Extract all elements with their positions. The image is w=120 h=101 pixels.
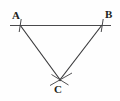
geometry-figure: A B C — [0, 0, 120, 101]
vertex-label-c: C — [54, 84, 62, 95]
side-AC — [20, 25, 61, 81]
vertex-label-b: B — [105, 9, 112, 20]
side-BC — [59, 25, 102, 81]
vertex-label-a: A — [12, 10, 20, 21]
